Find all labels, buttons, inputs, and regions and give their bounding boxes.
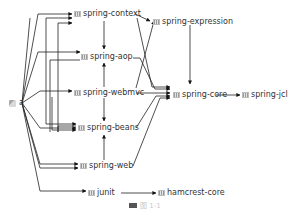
node-spring-aop[interactable]: spring-aop: [81, 52, 133, 62]
caption-text: 图 1-1: [140, 200, 161, 210]
node-spring-core[interactable]: spring-core: [173, 90, 227, 100]
node-label: spring-aop: [90, 52, 133, 62]
node-hamcrest-core[interactable]: hamcrest-core: [158, 188, 225, 198]
jar-icon: [88, 190, 95, 196]
node-label: spring-beans: [87, 123, 139, 133]
node-label: a: [19, 98, 24, 108]
node-label: spring-context: [83, 9, 141, 19]
node-a[interactable]: a: [9, 98, 24, 108]
node-label: spring-jcl: [251, 90, 288, 100]
node-spring-jcl[interactable]: spring-jcl: [242, 90, 288, 100]
node-label: spring-expression: [162, 17, 233, 27]
jar-icon: [80, 163, 87, 169]
project-icon: [9, 100, 16, 107]
figure-caption: 图 1-1: [129, 200, 161, 210]
jar-icon: [153, 19, 160, 25]
node-spring-expression[interactable]: spring-expression: [153, 17, 233, 27]
node-label: spring-webmvc: [83, 88, 144, 98]
node-junit[interactable]: junit: [88, 188, 115, 198]
jar-icon: [74, 11, 81, 17]
dependency-graph-edges: [0, 0, 294, 212]
node-label: spring-web: [89, 161, 133, 171]
jar-icon: [81, 54, 88, 60]
jar-icon: [242, 92, 249, 98]
node-spring-beans[interactable]: spring-beans: [78, 123, 139, 133]
jar-icon: [158, 190, 165, 196]
jar-icon: [173, 92, 180, 98]
node-spring-webmvc[interactable]: spring-webmvc: [74, 88, 144, 98]
jar-icon: [74, 90, 81, 96]
jar-icon: [78, 125, 85, 131]
node-label: hamcrest-core: [167, 188, 225, 198]
node-spring-web[interactable]: spring-web: [80, 161, 133, 171]
node-spring-context[interactable]: spring-context: [74, 9, 141, 19]
figure-icon: [129, 203, 137, 208]
node-label: spring-core: [182, 90, 227, 100]
node-label: junit: [97, 188, 115, 198]
